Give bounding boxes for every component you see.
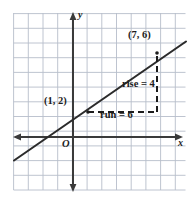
x-axis <box>13 134 183 141</box>
run-annotation-label: run = 6 <box>100 110 133 121</box>
rise-annotation-label: rise = 4 <box>122 79 155 90</box>
coordinate-graph-figure <box>0 0 195 203</box>
point-marker-1-2 <box>86 110 90 114</box>
graph-canvas <box>0 0 195 203</box>
y-axis-label: y <box>78 10 82 20</box>
y-axis-bottom-arrow <box>70 184 77 192</box>
point-label-1-2: (1, 2) <box>44 96 67 107</box>
point-marker-7-6 <box>155 51 159 55</box>
x-axis-left-arrow <box>13 134 21 141</box>
origin-label: O <box>62 139 70 150</box>
x-axis-label: x <box>178 138 183 148</box>
point-label-7-6: (7, 6) <box>128 30 151 41</box>
